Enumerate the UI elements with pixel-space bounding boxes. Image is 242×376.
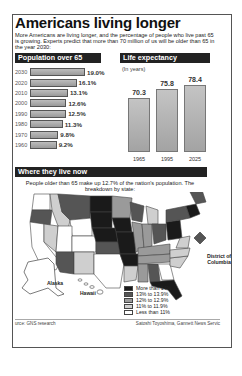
legend-swatch: [124, 298, 133, 303]
life-expectancy-chart: (In years) 70.3196575.8199578.42025: [122, 66, 212, 162]
life-expectancy-column: 78.4: [184, 75, 206, 152]
hawaii-label: Hawaii: [80, 290, 96, 296]
life-expectancy-column: 70.3: [128, 88, 150, 152]
population-row: 201013.1%: [15, 88, 115, 98]
where-header: Where they live now: [15, 167, 207, 177]
intro-text: More Americans are living longer, and th…: [15, 32, 215, 50]
population-row: 200012.6%: [15, 98, 115, 108]
alaska-label: Alaska: [47, 280, 63, 286]
life-expectancy-header: Life expectancy: [120, 53, 210, 63]
value-label: 78.4: [180, 76, 210, 83]
population-row: 19709.8%: [15, 129, 115, 139]
population-row: 19609.2%: [15, 140, 115, 150]
value-label: 11.3%: [65, 121, 82, 128]
source-credit: urce: GNS research: [15, 321, 56, 326]
value-label: 9.8%: [60, 131, 74, 138]
population-bar: [30, 79, 77, 87]
life-expectancy-column: 75.8: [156, 79, 178, 152]
map-legend: More than 14%13% to 13.9%12% to 12.9%11%…: [124, 285, 171, 315]
year-label: 2000: [15, 100, 30, 106]
value-label: 12.6%: [68, 100, 86, 107]
year-label: 2025: [180, 156, 210, 162]
footer-divider: [15, 319, 220, 320]
value-label: 9.2%: [59, 141, 73, 148]
year-label: 2020: [15, 80, 30, 86]
population-row: 203019.0%: [15, 67, 115, 77]
value-label: 19.0%: [87, 69, 105, 76]
population-bar: [30, 141, 57, 149]
dc-label: District of Columbia: [196, 253, 242, 265]
year-label: 1980: [15, 121, 30, 127]
legend-swatch: [124, 292, 133, 297]
value-label: 75.8: [152, 80, 182, 87]
population-chart: 203019.0%202016.1%201013.1%200012.6%1990…: [15, 67, 115, 150]
population-bar: [30, 110, 66, 118]
year-label: 1990: [15, 111, 30, 117]
author-credit: Satoshi Toyoshima, Gannett News Servic: [136, 321, 220, 326]
year-label: 1965: [124, 156, 154, 162]
year-label: 1995: [152, 156, 182, 162]
legend-swatch: [124, 286, 133, 291]
value-label: 70.3: [124, 89, 154, 96]
value-label: 16.1%: [79, 79, 97, 86]
life-unit-label: (In years): [122, 66, 145, 72]
population-bar: [30, 120, 63, 128]
where-text: People older than 65 make up 12.7% of th…: [20, 180, 200, 192]
value-label: 13.1%: [70, 89, 88, 96]
page-title: Americans living longer: [15, 14, 180, 31]
legend-label: Less than 11%: [136, 309, 170, 315]
legend-swatch: [124, 310, 133, 315]
year-label: 2030: [15, 69, 30, 75]
population-bar: [30, 68, 85, 76]
population-bar: [30, 89, 68, 97]
year-label: 1970: [15, 132, 30, 138]
year-label: 2010: [15, 90, 30, 96]
legend-swatch: [124, 304, 133, 309]
population-header: Population over 65: [15, 53, 101, 63]
life-expectancy-bar: [156, 89, 178, 152]
population-row: 202016.1%: [15, 77, 115, 87]
population-row: 198011.3%: [15, 119, 115, 129]
population-bar: [30, 99, 66, 107]
life-expectancy-bar: [128, 98, 150, 152]
population-row: 199012.5%: [15, 109, 115, 119]
value-label: 12.5%: [68, 110, 86, 117]
year-label: 1960: [15, 142, 30, 148]
population-bar: [30, 131, 58, 139]
legend-item: Less than 11%: [124, 309, 171, 315]
life-expectancy-bar: [184, 85, 206, 152]
